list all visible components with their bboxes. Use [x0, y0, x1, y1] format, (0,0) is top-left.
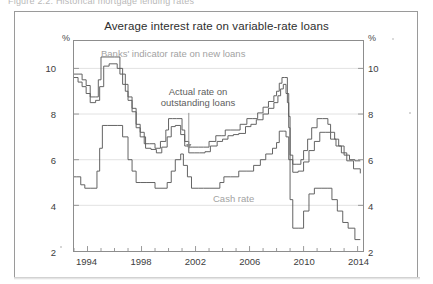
series-line — [74, 57, 360, 164]
x-tick-label: 1998 — [130, 256, 151, 267]
y-tick-label-left: 6 — [36, 154, 56, 165]
figure-caption-sliver: Figure 2.2: Historical mortgage lending … — [8, 0, 268, 6]
series-label-indicator-rate: Banks' indicator rate on new loans — [101, 48, 245, 59]
x-tick-label: 2002 — [185, 256, 206, 267]
data-series-layer — [74, 41, 363, 251]
y-tick-label-left: 8 — [36, 108, 56, 119]
x-tick-label: 1994 — [76, 256, 97, 267]
y-tick-label-right: 10 — [368, 62, 388, 73]
x-tick-label: 2014 — [348, 256, 369, 267]
right-axis-unit: % — [368, 33, 376, 43]
scan-speck — [392, 38, 394, 40]
y-tick-label-left: 10 — [36, 62, 56, 73]
chart-title: Average interest rate on variable-rate l… — [0, 20, 433, 32]
y-tick-label-left: 4 — [36, 200, 56, 211]
series-label-actual-rate: Actual rate on outstanding loans — [146, 86, 250, 108]
series-label-actual-line2: outstanding loans — [146, 97, 250, 108]
y-tick-label-left: 2 — [36, 247, 56, 258]
scan-edge-shadow — [14, 277, 420, 280]
series-label-actual-line1: Actual rate on — [146, 86, 250, 97]
x-tick-label: 2010 — [294, 256, 315, 267]
scan-speck — [409, 112, 411, 114]
series-label-cash-rate: Cash rate — [213, 193, 254, 204]
y-tick-label-right: 6 — [368, 154, 388, 165]
scan-speck — [60, 246, 62, 248]
x-tick-label: 2006 — [239, 256, 260, 267]
y-tick-label-right: 8 — [368, 108, 388, 119]
y-tick-label-right: 4 — [368, 200, 388, 211]
left-axis-unit: % — [62, 33, 70, 43]
y-tick-label-right: 2 — [368, 247, 388, 258]
plot-area — [73, 40, 364, 252]
